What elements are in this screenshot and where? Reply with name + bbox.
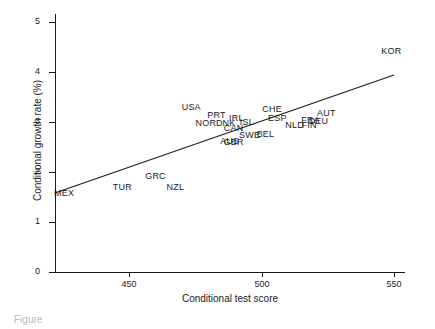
y-axis-tick (49, 22, 55, 23)
regression-line (0, 0, 435, 329)
data-point-kor: KOR (381, 47, 401, 56)
figure-caption: Figure (14, 314, 42, 326)
data-point-nzl: NZL (167, 183, 185, 192)
y-axis-title: Conditional growth rate (%) (32, 16, 43, 266)
y-axis-tick (49, 172, 55, 173)
data-point-tur: TUR (113, 183, 132, 192)
data-point-usa: USA (182, 103, 201, 112)
x-axis-tick-label: 500 (242, 280, 282, 289)
x-axis-tick (129, 272, 130, 277)
x-axis-line (55, 272, 405, 273)
y-axis-tick (49, 72, 55, 73)
data-point-mex: MEX (54, 189, 74, 198)
x-axis-tick-label: 450 (109, 280, 149, 289)
data-point-esp: ESP (268, 114, 287, 123)
y-axis-tick (49, 122, 55, 123)
data-point-grc: GRC (145, 172, 166, 181)
x-axis-tick (262, 272, 263, 277)
y-axis-tick-label: 0 (0, 267, 40, 276)
y-axis-tick (49, 272, 55, 273)
x-axis-tick (394, 272, 395, 277)
x-axis-tick-label: 550 (374, 280, 414, 289)
y-axis-line (55, 14, 56, 273)
data-point-aut: AUT (317, 109, 336, 118)
figure-root: 5 4 3 2 1 0 450 500 550 Conditional test… (0, 0, 435, 329)
data-point-bel: BEL (257, 129, 275, 138)
y-axis-tick (49, 222, 55, 223)
data-point-nor: NOR (196, 119, 217, 128)
x-axis-title: Conditional test score (55, 293, 405, 304)
